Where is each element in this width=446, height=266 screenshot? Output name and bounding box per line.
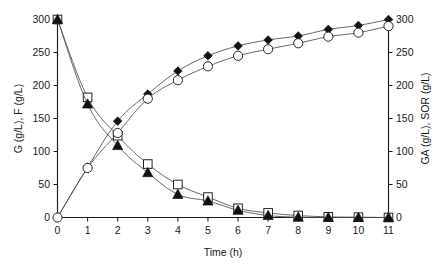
data-point-open-circle [53,213,62,222]
data-point-open-circle [354,28,363,37]
x-axis-title: Time (h) [204,246,243,258]
data-point-open-circle [143,94,152,103]
data-point-filled-diamond [204,52,213,61]
series-line-2 [58,20,389,218]
x-tick-label: 5 [205,224,211,236]
figure-container: 0501001502002503000501001502002503000123… [0,0,446,266]
data-point-open-circle [203,62,212,71]
data-point-open-square [174,180,183,189]
data-point-filled-diamond [234,42,243,51]
data-point-open-circle [233,51,242,60]
series-3 [53,15,393,222]
y2-tick-label: 250 [396,46,414,58]
axes-group [54,19,393,222]
series-line-4 [58,26,389,217]
y2-axis-title: GA (g/L), SOR (g/L) [419,72,431,164]
chart-canvas: 0501001502002503000501001502002503000123… [0,0,446,266]
data-point-open-circle [173,76,182,85]
data-point-filled-diamond [264,36,273,45]
y2-tick-label: 150 [396,112,414,124]
data-point-filled-triangle [173,189,183,198]
data-point-open-circle [294,39,303,48]
series-line-3 [58,20,389,218]
x-tick-label: 1 [85,224,91,236]
x-tick-label: 6 [235,224,241,236]
series-1 [53,15,393,222]
data-point-open-circle [113,128,122,137]
y-axis-title: G (g/L), F (g/L) [12,84,24,153]
y2-tick-label: 100 [396,145,414,157]
series-line-1 [58,20,389,218]
y-tick-label: 100 [32,145,50,157]
x-tick-label: 8 [295,224,301,236]
y-tick-label: 250 [32,46,50,58]
x-tick-label: 4 [175,224,181,236]
x-tick-label: 9 [325,224,331,236]
y-tick-label: 200 [32,79,50,91]
x-tick-label: 7 [265,224,271,236]
data-point-open-circle [83,163,92,172]
series-2 [52,14,393,221]
y2-tick-label: 300 [396,13,414,25]
data-point-open-circle [384,22,393,31]
data-point-filled-diamond [174,67,183,76]
y-tick-label: 150 [32,112,50,124]
tick-label-group: 0501001502002503000501001502002503000123… [32,13,413,235]
series-group [52,14,393,222]
x-tick-label: 0 [55,224,61,236]
data-point-open-circle [324,32,333,41]
y-tick-label: 300 [32,13,50,25]
y2-tick-label: 0 [396,211,402,223]
y2-tick-label: 50 [396,178,408,190]
y-tick-label: 50 [38,178,50,190]
data-point-open-circle [264,45,273,54]
x-tick-label: 2 [115,224,121,236]
x-tick-label: 3 [145,224,151,236]
x-tick-label: 11 [383,224,394,236]
y2-tick-label: 200 [396,79,414,91]
x-tick-label: 10 [353,224,365,236]
y-tick-label: 0 [44,211,50,223]
